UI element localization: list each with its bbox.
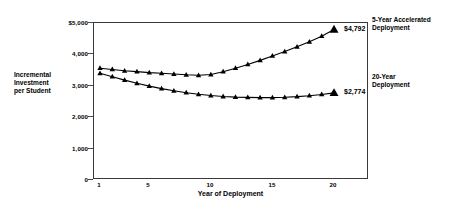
legend-label-line-1: 20-Year: [372, 73, 458, 81]
y-tick-label-4000: 4,000: [72, 50, 88, 57]
series-line-5-year-accelerated: [97, 25, 338, 77]
y-tick-label-1000: 1,000: [72, 144, 88, 151]
legend-label-line-2: Deployment: [372, 81, 458, 89]
y-tick-mark-0: [88, 179, 93, 180]
data-point-marker: [97, 65, 102, 70]
y-tick-label-5000: $5,000: [68, 19, 88, 26]
x-axis-title: Year of Deployment: [93, 190, 368, 197]
y-axis-tick-labels: $5,000 4,000 3,000 2,000 1,000 0: [40, 0, 88, 211]
chart-figure: $5,000 4,000 3,000 2,000 1,000 0 Increme…: [0, 0, 460, 211]
y-axis-title-line-3: per Student: [14, 87, 72, 95]
endpoint-value-label-5-year: $4,792: [344, 25, 365, 32]
series-polyline: [100, 73, 334, 97]
data-point-marker: [330, 25, 339, 33]
plot-area: [93, 22, 368, 179]
legend-label-line-1: 5-Year Accelerated: [372, 16, 458, 24]
data-point-marker: [330, 88, 339, 96]
y-tick-label-3000: 3,000: [72, 81, 88, 88]
y-tick-label-2000: 2,000: [72, 113, 88, 120]
x-tick-label-10: 10: [207, 181, 214, 188]
x-tick-label-5: 5: [146, 181, 149, 188]
series-canvas: [94, 23, 369, 180]
y-axis-title-line-2: Investment: [14, 79, 72, 87]
series-polyline: [100, 30, 334, 76]
legend-entry-20-year: 20-Year Deployment: [372, 73, 458, 89]
x-tick-label-15: 15: [269, 181, 276, 188]
x-tick-label-20: 20: [330, 181, 337, 188]
legend-label-line-2: Deployment: [372, 24, 458, 32]
y-axis-title-line-1: Incremental: [14, 71, 72, 79]
x-tick-label-1: 1: [97, 181, 100, 188]
endpoint-value-label-20-year: $2,774: [344, 88, 365, 95]
y-axis-title: Incremental Investment per Student: [14, 71, 72, 95]
data-point-marker: [97, 70, 102, 75]
series-line-20-year: [97, 70, 338, 99]
legend-entry-5-year-accelerated: 5-Year Accelerated Deployment: [372, 16, 458, 32]
